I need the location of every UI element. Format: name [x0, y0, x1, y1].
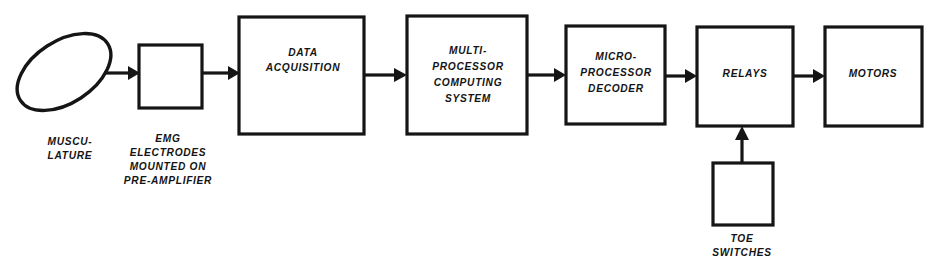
mpcs-label-line-4: SYSTEM: [445, 93, 491, 104]
connector-mpcs-to-mpd: [527, 68, 566, 82]
arrow-head-icon: [813, 69, 825, 83]
relays-label: RELAYS: [723, 68, 768, 79]
connector-toe-switches-to-relays: [735, 126, 749, 163]
motors-label: MOTORS: [849, 68, 898, 79]
emg-caption-line-2: ELECTRODES: [130, 147, 207, 158]
data-acquisition-box: [239, 17, 364, 134]
emg-caption-line-3: MOUNTED ON: [130, 161, 207, 172]
node-toe-switches: [713, 163, 773, 225]
node-microprocessor-decoder: MICRO- PROCESSOR DECODER: [566, 26, 665, 124]
toe-switches-box: [713, 163, 773, 225]
toe-switches-caption-line-2: SWITCHES: [712, 247, 771, 258]
node-multiprocessor-computing-system: MULTI- PROCESSOR COMPUTING SYSTEM: [407, 16, 527, 134]
arrow-head-icon: [554, 68, 566, 82]
node-motors: MOTORS: [825, 27, 922, 126]
musculature-caption-line-1: MUSCU-: [48, 136, 93, 147]
arrow-head-icon: [685, 69, 697, 83]
emg-caption-line-4: PRE-AMPLIFIER: [124, 175, 212, 186]
connector-emg-to-daq: [202, 66, 240, 80]
data-acquisition-label-line-2: ACQUISITION: [265, 62, 341, 73]
caption-musculature: MUSCU- LATURE: [48, 136, 93, 161]
data-acquisition-label-line-1: DATA: [288, 47, 318, 58]
node-emg-electrodes: [139, 45, 202, 108]
diagram-canvas: DATA ACQUISITION MULTI- PROCESSOR COMPUT…: [0, 0, 934, 269]
mpcs-label-line-1: MULTI-: [449, 45, 487, 56]
mpcs-label-line-2: PROCESSOR: [432, 61, 503, 72]
connector-daq-to-mpcs: [364, 68, 407, 82]
arrow-head-icon: [394, 68, 407, 82]
caption-toe-switches: TOE SWITCHES: [712, 233, 771, 258]
node-data-acquisition: DATA ACQUISITION: [239, 17, 364, 134]
node-relays: RELAYS: [697, 27, 793, 126]
block-diagram: DATA ACQUISITION MULTI- PROCESSOR COMPUT…: [0, 0, 934, 269]
emg-caption-line-1: EMG: [155, 133, 180, 144]
toe-switches-caption-line-1: TOE: [731, 233, 754, 244]
mpd-label-line-3: DECODER: [588, 83, 644, 94]
mpcs-label-line-3: COMPUTING: [434, 77, 503, 88]
emg-electrodes-box: [139, 45, 202, 108]
musculature-caption-line-2: LATURE: [48, 150, 93, 161]
multiprocessor-computing-system-box: [407, 16, 527, 134]
mpd-label-line-1: MICRO-: [595, 51, 637, 62]
caption-emg-electrodes: EMG ELECTRODES MOUNTED ON PRE-AMPLIFIER: [124, 133, 212, 186]
connector-relays-to-motors: [793, 69, 825, 83]
arrow-head-icon: [735, 126, 749, 140]
mpd-label-line-2: PROCESSOR: [580, 67, 651, 78]
connector-mpd-to-relays: [665, 69, 697, 83]
